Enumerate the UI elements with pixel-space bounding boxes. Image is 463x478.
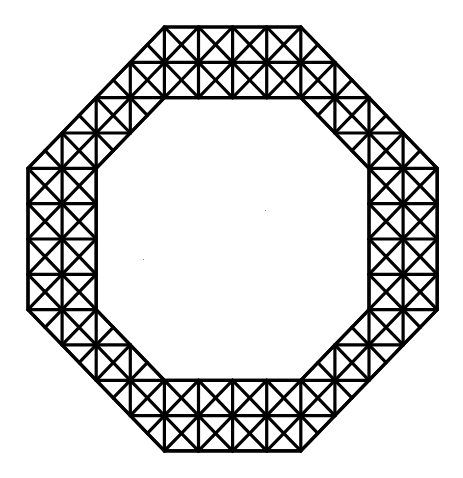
grid-line <box>45 168 62 186</box>
grid-line <box>181 45 198 63</box>
grid-line <box>335 380 352 398</box>
grid-line <box>45 310 62 328</box>
grid-line <box>45 204 62 222</box>
grid-line <box>96 133 113 151</box>
grid-line <box>267 62 284 80</box>
grid-line <box>216 62 233 80</box>
grid-line <box>28 221 45 239</box>
grid-line <box>199 80 216 98</box>
grid-line <box>301 62 318 80</box>
grid-line <box>250 80 267 98</box>
grid-line <box>233 433 250 451</box>
grid-line <box>369 204 386 222</box>
grid-line <box>335 80 352 98</box>
grid-line <box>216 433 233 451</box>
grid-line <box>420 204 437 222</box>
grid-line <box>250 433 267 451</box>
grid-line <box>28 292 45 310</box>
grid-line <box>62 221 79 239</box>
grid-line <box>301 80 318 98</box>
grid-line <box>352 133 369 151</box>
grid-line <box>147 398 164 416</box>
grid-line <box>386 257 403 275</box>
grid-line <box>233 62 250 80</box>
grid-line <box>62 274 79 292</box>
grid-line <box>233 416 250 434</box>
grid-line <box>181 27 198 45</box>
grid-line <box>386 292 403 310</box>
grid-line <box>28 274 45 292</box>
grid-line <box>284 380 301 398</box>
grid-line <box>369 151 386 169</box>
grid-line <box>28 257 45 275</box>
grid-line <box>335 345 352 363</box>
grid-line <box>79 168 96 186</box>
grid-line <box>199 416 216 434</box>
grid-line <box>181 62 198 80</box>
grid-line <box>130 398 147 416</box>
grid-line <box>386 168 403 186</box>
grid-line <box>284 80 301 98</box>
grid-line <box>45 292 62 310</box>
grid-line <box>369 133 386 151</box>
grid-line <box>96 345 113 363</box>
grid-line <box>403 310 420 328</box>
grid-line <box>284 433 301 451</box>
grid-line <box>96 327 113 345</box>
grid-line <box>250 416 267 434</box>
grid-line <box>403 292 420 310</box>
grid-line <box>79 115 96 133</box>
grid-line <box>113 98 130 116</box>
grid-line <box>420 221 437 239</box>
grid-line <box>28 186 45 204</box>
grid-line <box>386 133 403 151</box>
grid-line <box>216 416 233 434</box>
grid-line <box>318 98 335 116</box>
grid-line <box>403 257 420 275</box>
grid-line <box>62 168 79 186</box>
grid-line <box>335 363 352 381</box>
grid-line <box>62 204 79 222</box>
grid-line <box>284 27 301 45</box>
grid-line <box>164 45 181 63</box>
grid-line <box>369 115 386 133</box>
grid-line <box>267 45 284 63</box>
grid-line <box>216 27 233 45</box>
grid-line <box>62 327 79 345</box>
grid-line <box>352 363 369 381</box>
grid-line <box>130 62 147 80</box>
grid-line <box>113 115 130 133</box>
grid-line <box>403 151 420 169</box>
grid-line <box>335 98 352 116</box>
grid-line <box>386 221 403 239</box>
grid-line <box>45 274 62 292</box>
grid-line <box>216 45 233 63</box>
grid-line <box>301 416 318 434</box>
grid-line <box>62 292 79 310</box>
grid-line <box>369 168 386 186</box>
grid-line <box>250 27 267 45</box>
grid-line <box>45 257 62 275</box>
grid-line <box>318 363 335 381</box>
grid-line <box>420 274 437 292</box>
grid-line <box>420 186 437 204</box>
grid-line <box>233 80 250 98</box>
grid-line <box>233 27 250 45</box>
grid-line <box>28 204 45 222</box>
grid-line <box>284 62 301 80</box>
grid-line <box>164 80 181 98</box>
grid-line <box>199 380 216 398</box>
grid-line <box>284 398 301 416</box>
grid-line <box>318 80 335 98</box>
grid-line <box>403 274 420 292</box>
grid-line <box>79 327 96 345</box>
grid-line <box>199 433 216 451</box>
grid-line <box>369 274 386 292</box>
grid-line <box>352 98 369 116</box>
grid-line <box>164 433 181 451</box>
grid-line <box>164 27 181 45</box>
grid-line <box>335 115 352 133</box>
grid-line <box>352 327 369 345</box>
grid-line <box>113 80 130 98</box>
grid-line <box>45 151 62 169</box>
